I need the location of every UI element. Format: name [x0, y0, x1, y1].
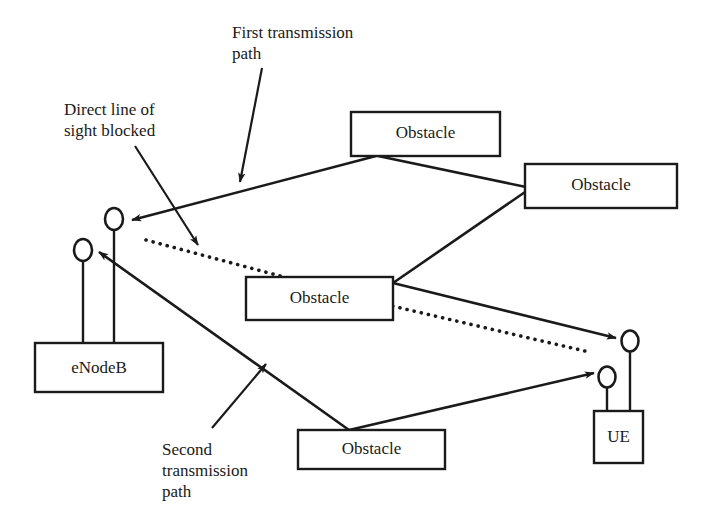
path-segment-center-obstacle-to-ue — [393, 283, 616, 338]
diagram-canvas: eNodeB UE Obstacle Obstacle Obstacle Obs… — [0, 0, 702, 528]
path-segment-top-obstacle-to-right-obstacle — [378, 156, 526, 187]
obstacle-right-label: Obstacle — [571, 175, 630, 194]
callout-second-transmission-path-leader — [212, 364, 266, 428]
callout-first-transmission-path-leader — [240, 68, 262, 182]
diagram-svg: eNodeB UE Obstacle Obstacle Obstacle Obs… — [0, 0, 702, 528]
callout-direct-line-of-sight-blocked-text: Direct line of sight blocked — [64, 99, 155, 141]
path-segment-right-obstacle-to-center-obstacle — [393, 190, 528, 283]
obstacle-bottom: Obstacle — [298, 430, 445, 469]
ue-label: UE — [607, 427, 630, 446]
enodeb-label: eNodeB — [71, 358, 127, 377]
ue-antenna-short-icon — [599, 367, 616, 388]
enodeb-node: eNodeB — [35, 208, 163, 392]
callout-direct-line-of-sight-blocked-leader — [135, 146, 198, 245]
enodeb-antenna-tall-icon — [105, 208, 123, 230]
callout-second-transmission-path-text: Second transmission path — [162, 439, 248, 502]
path-segment-top-obstacle-to-enodeb — [132, 156, 376, 220]
enodeb-antenna-short-icon — [74, 239, 92, 261]
path-segment-bottom-obstacle-to-ue — [349, 373, 594, 430]
obstacle-top-label: Obstacle — [396, 123, 455, 142]
obstacle-center-label: Obstacle — [290, 288, 349, 307]
obstacle-right: Obstacle — [525, 164, 677, 208]
callout-first-transmission-path-text: First transmission path — [232, 22, 353, 64]
ue-antenna-tall-icon — [622, 331, 639, 352]
ue-node: UE — [594, 331, 643, 464]
obstacle-top: Obstacle — [351, 112, 500, 156]
obstacle-bottom-label: Obstacle — [342, 439, 401, 458]
obstacle-center: Obstacle — [246, 277, 393, 320]
